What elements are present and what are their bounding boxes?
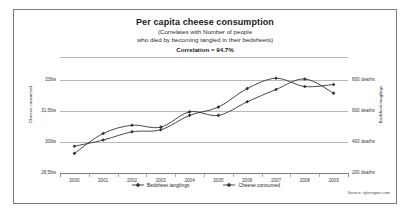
left-axis-tick-label: 28.5lbs xyxy=(30,170,56,175)
source-note: Source: tylervigen.com xyxy=(347,190,390,195)
right-axis-title: Bedsheet tanglings xyxy=(378,75,383,135)
data-point-marker xyxy=(101,132,105,136)
gridlines xyxy=(60,58,348,174)
data-point-marker xyxy=(217,114,221,118)
data-point-marker xyxy=(303,85,307,89)
data-point-marker xyxy=(101,138,105,142)
left-axis-title: Cheese consumed xyxy=(28,75,33,135)
right-axis-tick-label: 800 deaths xyxy=(352,77,392,82)
plot-svg xyxy=(14,10,398,205)
legend-marker-icon xyxy=(223,182,235,188)
chart-container: Per capita cheese consumption (Correlate… xyxy=(13,9,397,204)
data-point-marker xyxy=(245,87,249,91)
data-point-marker xyxy=(332,91,336,95)
data-point-marker xyxy=(274,76,278,80)
legend-marker-icon xyxy=(132,182,144,188)
series-layer xyxy=(73,76,336,155)
legend-label: Bedsheet tanglings xyxy=(147,182,190,188)
data-point-marker xyxy=(332,83,336,87)
data-point-marker xyxy=(188,110,192,114)
legend-entry[interactable]: Bedsheet tanglings xyxy=(132,182,190,188)
data-point-marker xyxy=(217,105,221,109)
chart-legend: Bedsheet tanglingsCheese consumed xyxy=(14,182,398,188)
right-axis-tick-label: 600 deaths xyxy=(352,108,392,113)
legend-entry[interactable]: Cheese consumed xyxy=(223,182,280,188)
right-axis-tick-label: 400 deaths xyxy=(352,139,392,144)
data-point-marker xyxy=(130,123,134,127)
right-axis-tick-label: 200 deaths xyxy=(352,170,392,175)
data-point-marker xyxy=(73,144,77,148)
data-point-marker xyxy=(130,130,134,134)
plot-area: Cheese consumed Bedsheet tanglings 33lbs… xyxy=(14,10,398,205)
left-axis-tick-label: 31.5lbs xyxy=(30,108,56,113)
left-axis-tick-label: 33lbs xyxy=(30,77,56,82)
legend-label: Cheese consumed xyxy=(238,182,280,188)
data-point-marker xyxy=(274,88,278,92)
series-line xyxy=(74,78,333,146)
data-point-marker xyxy=(245,100,249,104)
left-axis-tick-label: 30lbs xyxy=(30,139,56,144)
data-point-marker xyxy=(188,114,192,118)
data-point-marker xyxy=(159,128,163,132)
